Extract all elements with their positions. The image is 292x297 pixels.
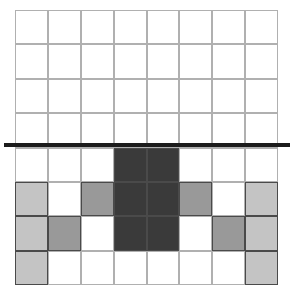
grid-cell-r5-c3[interactable] — [81, 148, 114, 182]
grid-cell-r2-c2[interactable] — [48, 44, 81, 78]
grid-cell-r1-c3[interactable] — [81, 10, 114, 44]
grid-cell-r1-c7[interactable] — [212, 10, 245, 44]
grid-cell-r8-c4[interactable] — [114, 251, 147, 285]
grid-cell-r6-c8[interactable] — [245, 182, 278, 216]
grid-cell-r7-c7[interactable] — [212, 216, 245, 250]
cell-grid — [15, 10, 278, 285]
grid-cell-r6-c4[interactable] — [114, 182, 147, 216]
grid-cell-r1-c8[interactable] — [245, 10, 278, 44]
grid-cell-r8-c7[interactable] — [212, 251, 245, 285]
grid-cell-r8-c1[interactable] — [15, 251, 48, 285]
grid-cell-r1-c1[interactable] — [15, 10, 48, 44]
grid-cell-r8-c2[interactable] — [48, 251, 81, 285]
grid-cell-r2-c4[interactable] — [114, 44, 147, 78]
grid-cell-r7-c4[interactable] — [114, 216, 147, 250]
grid-cell-r6-c1[interactable] — [15, 182, 48, 216]
grid-cell-r7-c3[interactable] — [81, 216, 114, 250]
grid-cell-r3-c7[interactable] — [212, 79, 245, 113]
grid-cell-r6-c7[interactable] — [212, 182, 245, 216]
grid-cell-r3-c6[interactable] — [179, 79, 212, 113]
grid-cell-r7-c2[interactable] — [48, 216, 81, 250]
grid-cell-r1-c5[interactable] — [147, 10, 180, 44]
grid-cell-r8-c8[interactable] — [245, 251, 278, 285]
grid-cell-r6-c5[interactable] — [147, 182, 180, 216]
figure-canvas — [0, 0, 292, 297]
grid-cell-r1-c6[interactable] — [179, 10, 212, 44]
grid-cell-r2-c6[interactable] — [179, 44, 212, 78]
grid-cell-r2-c1[interactable] — [15, 44, 48, 78]
grid-cell-r5-c4[interactable] — [114, 148, 147, 182]
grid-cell-r3-c3[interactable] — [81, 79, 114, 113]
grid-cell-r5-c1[interactable] — [15, 148, 48, 182]
grid-cell-r1-c4[interactable] — [114, 10, 147, 44]
grid-cell-r8-c3[interactable] — [81, 251, 114, 285]
threshold-line — [4, 143, 290, 147]
grid-cell-r3-c4[interactable] — [114, 79, 147, 113]
grid-cell-r6-c3[interactable] — [81, 182, 114, 216]
grid-cell-r2-c8[interactable] — [245, 44, 278, 78]
grid-cell-r7-c5[interactable] — [147, 216, 180, 250]
grid-cell-r5-c5[interactable] — [147, 148, 180, 182]
grid-cell-r5-c8[interactable] — [245, 148, 278, 182]
grid-cell-r1-c2[interactable] — [48, 10, 81, 44]
grid-cell-r2-c7[interactable] — [212, 44, 245, 78]
grid-cell-r7-c6[interactable] — [179, 216, 212, 250]
grid-cell-r5-c6[interactable] — [179, 148, 212, 182]
grid-cell-r6-c2[interactable] — [48, 182, 81, 216]
grid-cell-r3-c8[interactable] — [245, 79, 278, 113]
grid-cell-r2-c3[interactable] — [81, 44, 114, 78]
grid-cell-r8-c6[interactable] — [179, 251, 212, 285]
grid-cell-r3-c2[interactable] — [48, 79, 81, 113]
grid-cell-r6-c6[interactable] — [179, 182, 212, 216]
grid-cell-r8-c5[interactable] — [147, 251, 180, 285]
grid-cell-r5-c7[interactable] — [212, 148, 245, 182]
grid-cell-r3-c1[interactable] — [15, 79, 48, 113]
grid-cell-r5-c2[interactable] — [48, 148, 81, 182]
grid-cell-r7-c8[interactable] — [245, 216, 278, 250]
grid-cell-r3-c5[interactable] — [147, 79, 180, 113]
grid-cell-r7-c1[interactable] — [15, 216, 48, 250]
grid-cell-r2-c5[interactable] — [147, 44, 180, 78]
